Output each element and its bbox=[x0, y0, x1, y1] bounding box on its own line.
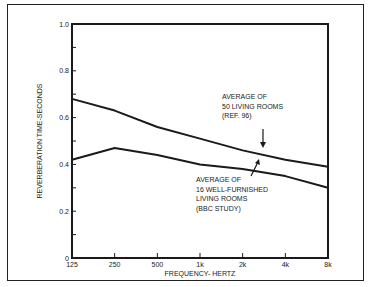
x-tick-label: 1k bbox=[196, 261, 204, 268]
x-tick-label: 125 bbox=[66, 261, 78, 268]
annotation-line: AVERAGE OF bbox=[196, 176, 241, 183]
y-tick-label: 0.4 bbox=[59, 161, 69, 168]
y-tick-label: 0.2 bbox=[59, 208, 69, 215]
plot-area-border bbox=[72, 24, 328, 258]
data-series bbox=[72, 99, 328, 188]
annotation-bbc-study: AVERAGE OF16 WELL-FURNISHEDLIVING ROOMS(… bbox=[196, 176, 268, 213]
x-tick-label: 500 bbox=[151, 261, 163, 268]
annotation-50-living-rooms: AVERAGE OF50 LIVING ROOMS(REF. 96) bbox=[222, 93, 283, 120]
annotation-line: (REF. 96) bbox=[222, 112, 252, 120]
annotation-line: 16 WELL-FURNISHED bbox=[196, 186, 268, 193]
y-axis-ticks: 00.20.40.60.81.0 bbox=[59, 21, 76, 262]
x-tick-label: 8k bbox=[324, 261, 332, 268]
y-tick-label: 1.0 bbox=[59, 21, 69, 28]
y-tick-label: 0.8 bbox=[59, 67, 69, 74]
x-tick-label: 4k bbox=[282, 261, 290, 268]
x-tick-label: 250 bbox=[109, 261, 121, 268]
y-axis-label: REVERBERATION TIME-SECONDS bbox=[36, 83, 43, 198]
annotation-line: AVERAGE OF bbox=[222, 93, 267, 100]
reverberation-chart: 00.20.40.60.81.0 1252505001k2k4k8k FREQU… bbox=[0, 0, 371, 287]
arrow-up-icon bbox=[251, 162, 258, 176]
x-axis-label: FREQUENCY- HERTZ bbox=[165, 270, 237, 278]
series-50-living-rooms bbox=[72, 99, 328, 167]
arrowhead bbox=[260, 142, 266, 148]
x-axis-ticks: 1252505001k2k4k8k bbox=[66, 253, 332, 268]
annotation-line: 50 LIVING ROOMS bbox=[222, 103, 283, 110]
annotation-line: (BBC STUDY) bbox=[196, 205, 241, 213]
plot-axes bbox=[72, 24, 328, 258]
x-tick-label: 2k bbox=[239, 261, 247, 268]
annotation-line: LIVING ROOMS bbox=[196, 195, 248, 202]
y-tick-label: 0.6 bbox=[59, 114, 69, 121]
